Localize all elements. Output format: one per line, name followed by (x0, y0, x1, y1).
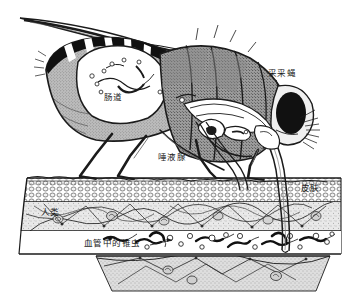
label-skin: 皮肤 (301, 184, 320, 193)
subcutaneous-tissue-layer (96, 253, 330, 291)
label-human: 人类 (41, 208, 60, 217)
label-gut: 肠道 (104, 93, 123, 102)
label-tsetse-fly: 采采蝇 (268, 69, 296, 78)
label-salivary-gland: 唾液腺 (158, 153, 186, 162)
blood-vessel-lumen (19, 231, 341, 254)
dermis-layer (21, 201, 348, 231)
fly-gut (77, 46, 167, 124)
epidermis-layer (24, 177, 341, 203)
fly-compound-eye (276, 92, 306, 134)
illustration-figure: 肠道 唾液腺 采采蝇 皮肤 人类 血管中的锥虫 (0, 0, 354, 305)
label-trypanosomes-in-vessel: 血管中的锥虫 (84, 239, 140, 248)
